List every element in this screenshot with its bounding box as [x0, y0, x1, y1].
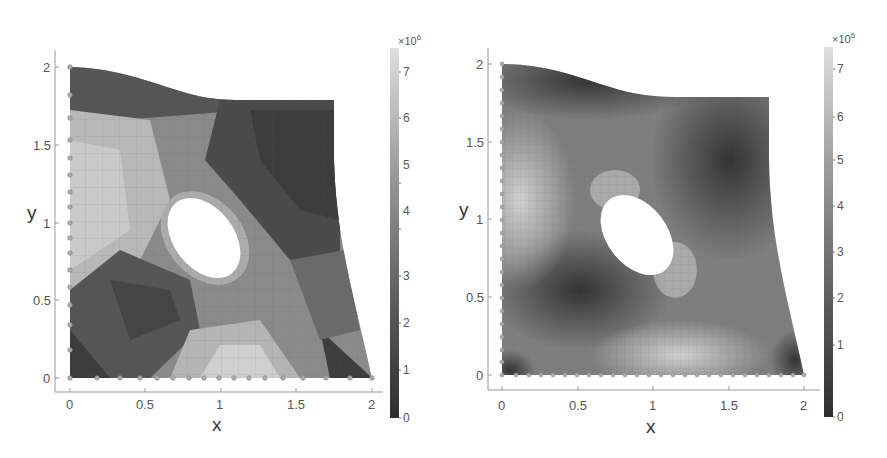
cb-tick-5: 5: [403, 159, 410, 171]
cb-tick-3: 3: [403, 270, 410, 282]
left-plot: 0 0.5 1 1.5 2 0 0.5 1 1.5 2 x y ×106 0 1…: [0, 0, 440, 458]
colorbar-multiplier: ×106: [832, 31, 855, 45]
y-tick-1.5: 1.5: [466, 136, 484, 149]
cb-tick-0: 0: [837, 411, 844, 423]
right-plot: 0 0.5 1 1.5 2 0 0.5 1 1.5 2 x y ×106 0 1…: [440, 0, 887, 458]
colorbar: [824, 47, 833, 417]
x-tick-0.5: 0.5: [136, 398, 154, 411]
cb-tick-7: 7: [403, 66, 410, 78]
x-tick-1.5: 1.5: [720, 399, 738, 412]
y-tick-0.5: 0.5: [33, 294, 51, 307]
x-tick-0.5: 0.5: [569, 399, 587, 412]
left-stress-field: [60, 60, 380, 390]
cb-tick-4: 4: [403, 205, 410, 217]
y-tick-0: 0: [476, 369, 483, 382]
x-tick-1: 1: [649, 399, 656, 412]
cb-tick-6: 6: [403, 112, 410, 124]
x-tick-2: 2: [800, 399, 807, 412]
y-tick-1: 1: [43, 217, 50, 230]
cb-tick-6: 6: [837, 111, 844, 123]
cb-tick-7: 7: [837, 63, 844, 75]
y-tick-1: 1: [476, 213, 483, 226]
y-tick-0: 0: [43, 372, 50, 385]
cb-tick-2: 2: [837, 292, 844, 304]
y-tick-0.5: 0.5: [466, 291, 484, 304]
x-axis-title: x: [212, 414, 222, 436]
left-plot-canvas: [0, 0, 440, 458]
colorbar-multiplier: ×106: [398, 33, 421, 47]
cb-tick-5: 5: [837, 154, 844, 166]
y-axis-title: y: [459, 199, 469, 221]
x-tick-1.5: 1.5: [287, 398, 305, 411]
x-tick-0: 0: [66, 398, 73, 411]
right-stress-field: [465, 40, 820, 390]
cb-tick-0: 0: [403, 412, 410, 424]
colorbar: [390, 48, 399, 418]
cb-tick-2: 2: [403, 317, 410, 329]
x-tick-1: 1: [216, 398, 223, 411]
y-tick-1.5: 1.5: [33, 139, 51, 152]
cb-tick-1: 1: [837, 339, 844, 351]
right-plot-canvas: [440, 0, 887, 458]
cb-tick-1: 1: [403, 364, 410, 376]
y-axis-title: y: [27, 202, 37, 224]
cb-tick-4: 4: [837, 200, 844, 212]
x-tick-0: 0: [498, 399, 505, 412]
y-tick-2: 2: [476, 58, 483, 71]
x-tick-2: 2: [368, 398, 375, 411]
cb-tick-3: 3: [837, 246, 844, 258]
x-axis-title: x: [646, 416, 656, 438]
y-tick-2: 2: [43, 61, 50, 74]
